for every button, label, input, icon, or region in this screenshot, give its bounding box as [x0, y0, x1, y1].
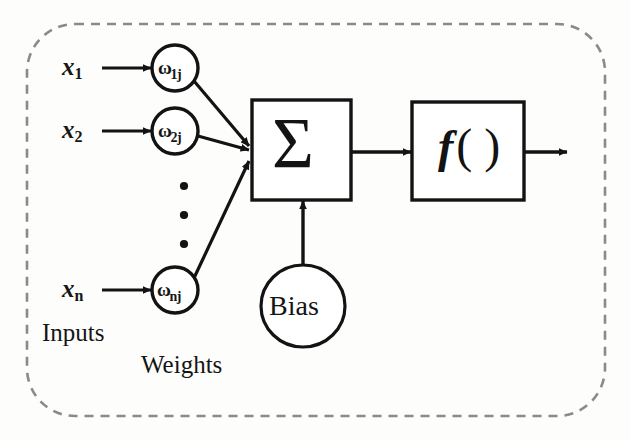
weight-subscript-3: nj	[169, 289, 180, 304]
input-subscript-xn: n	[75, 287, 84, 304]
neuron-diagram-canvas: x1 x2 xn ω1j ω2j ωnj Σ f( ) Bias Inputs …	[0, 0, 630, 440]
diagram-vector-layer	[0, 0, 630, 440]
weight-label-3: ωnj	[157, 280, 181, 304]
weight-label-2: ω2j	[158, 121, 181, 145]
activation-symbol: f( )	[438, 122, 500, 170]
ellipsis-dot-1	[180, 182, 188, 190]
input-label-xn: xn	[62, 276, 83, 304]
input-label-x1: x1	[62, 54, 83, 82]
input-symbol-x2: x	[62, 116, 75, 143]
weight-to-sum-line-3	[194, 161, 249, 278]
dashed-enclosure-border	[27, 24, 605, 416]
input-symbol-xn: x	[62, 275, 75, 302]
weight-subscript-2: 2j	[170, 130, 181, 145]
input-label-x2: x2	[62, 117, 83, 145]
input-subscript-x1: 1	[75, 65, 83, 82]
ellipsis-dot-3	[180, 240, 188, 248]
activation-f-symbol: f	[438, 121, 453, 172]
caption-weights: Weights	[141, 352, 222, 377]
summation-symbol: Σ	[272, 107, 314, 179]
weight-label-1: ω1j	[158, 58, 181, 82]
input-subscript-x2: 2	[75, 128, 83, 145]
weight-subscript-1: 1j	[170, 67, 181, 82]
input-symbol-x1: x	[62, 53, 75, 80]
bias-label: Bias	[269, 292, 319, 320]
caption-inputs: Inputs	[42, 320, 105, 345]
ellipsis-dot-2	[180, 211, 188, 219]
activation-parentheses: ( )	[456, 119, 500, 172]
